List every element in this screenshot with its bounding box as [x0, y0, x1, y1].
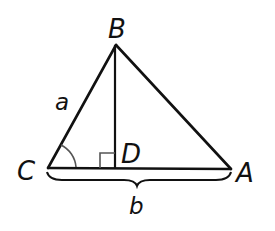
brace-b — [47, 172, 231, 186]
label-side-b: b — [129, 193, 144, 219]
label-vertex-c: C — [17, 156, 36, 186]
right-angle-marker — [100, 153, 115, 168]
angle-arc-c — [61, 145, 76, 167]
label-vertex-b: B — [108, 14, 126, 44]
label-vertex-a: A — [234, 158, 254, 188]
triangle-diagram: B C A D a b — [0, 0, 275, 231]
label-side-a: a — [55, 89, 69, 115]
label-point-d: D — [121, 139, 141, 169]
